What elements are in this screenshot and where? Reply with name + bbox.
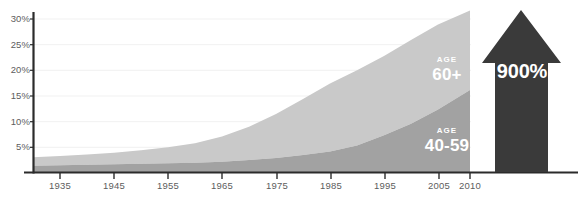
growth-arrow-value: 900% (482, 60, 562, 82)
series-label-value: 40-59 (409, 136, 485, 155)
y-tick-label: 30% (0, 14, 30, 24)
y-axis-labels: 30% 25% 20% 15% 10% 5% (0, 0, 30, 197)
y-tick-label: 25% (0, 40, 30, 50)
growth-arrow-callout: 900% (482, 8, 562, 174)
y-tick-label: 15% (0, 91, 30, 101)
y-tick-label: 20% (0, 65, 30, 75)
series-label-60plus: AGE 60+ (409, 55, 485, 84)
series-label-value: 60+ (409, 65, 485, 84)
plot-area: 30% 25% 20% 15% 10% 5% 1935 1945 1955 19… (0, 0, 585, 197)
series-label-kicker: AGE (409, 126, 485, 136)
x-axis-ticks (60, 173, 470, 179)
series-label-kicker: AGE (409, 55, 485, 65)
y-tick-label: 10% (0, 117, 30, 127)
y-tick-label: 5% (0, 142, 30, 152)
chart-root: 30% 25% 20% 15% 10% 5% 1935 1945 1955 19… (0, 0, 585, 197)
series-label-40-59: AGE 40-59 (409, 126, 485, 155)
